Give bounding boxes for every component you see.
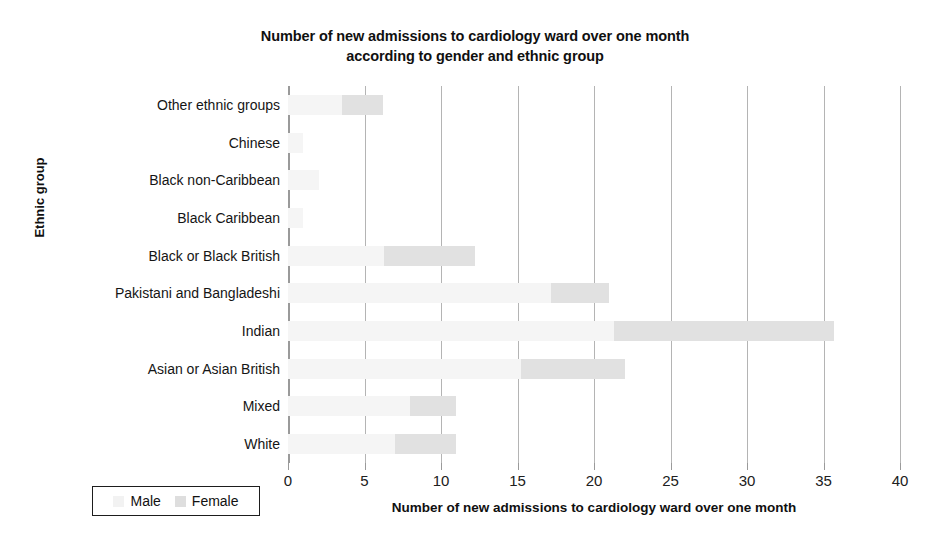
y-axis-category-label: Chinese [90,135,280,151]
x-tick-label: 5 [360,472,368,489]
x-gridline [900,86,901,463]
y-axis-category-label: Other ethnic groups [90,97,280,113]
bar-segment-male[interactable] [288,208,303,228]
bar-segment-female[interactable] [342,95,383,115]
legend-label: Male [130,493,160,509]
x-tick-mark [594,463,595,470]
x-tick-label: 15 [509,472,526,489]
x-tick-label: 10 [433,472,450,489]
x-tick-mark [671,463,672,470]
x-tick-mark [747,463,748,470]
y-axis-category-label: Pakistani and Bangladeshi [90,285,280,301]
legend-item[interactable]: Male [113,493,160,509]
y-axis-category-label: Asian or Asian British [90,361,280,377]
bar-row[interactable] [288,246,900,266]
x-tick-label: 20 [586,472,603,489]
bar-segment-male[interactable] [288,359,521,379]
x-tick-label: 0 [284,472,292,489]
bar-chart: Number of new admissions to cardiology w… [0,0,950,552]
y-axis-category-label: White [90,436,280,452]
y-axis-category-label: Mixed [90,398,280,414]
bar-segment-male[interactable] [288,246,384,266]
bar-segment-male[interactable] [288,434,395,454]
y-axis-category-label: Black Caribbean [90,210,280,226]
bar-row[interactable] [288,321,900,341]
bar-segment-female[interactable] [551,283,609,303]
x-tick-mark [824,463,825,470]
bar-segment-female[interactable] [614,321,834,341]
x-tick-label: 40 [892,472,909,489]
legend-swatch-male [113,496,124,507]
x-tick-mark [900,463,901,470]
bar-segment-female[interactable] [384,246,474,266]
bar-segment-female[interactable] [410,396,456,416]
legend-label: Female [192,493,239,509]
bar-segment-male[interactable] [288,133,303,153]
x-tick-mark [288,463,289,470]
bar-segment-male[interactable] [288,283,551,303]
plot-area: 0510152025303540 [288,86,900,463]
y-axis-category-label: Black non-Caribbean [90,172,280,188]
y-axis-title: Ethnic group [32,128,47,268]
bar-segment-male[interactable] [288,95,342,115]
bar-row[interactable] [288,208,900,228]
y-axis-category-labels: Other ethnic groupsChineseBlack non-Cari… [88,86,280,463]
chart-legend: MaleFemale [92,486,260,516]
bar-segment-female[interactable] [395,434,456,454]
bar-segment-male[interactable] [288,396,410,416]
bar-row[interactable] [288,283,900,303]
x-tick-mark [365,463,366,470]
x-tick-mark [441,463,442,470]
y-axis-category-label: Black or Black British [90,248,280,264]
x-axis-title: Number of new admissions to cardiology w… [288,500,900,515]
x-tick-label: 30 [739,472,756,489]
bar-row[interactable] [288,133,900,153]
bar-row[interactable] [288,359,900,379]
bar-row[interactable] [288,434,900,454]
x-tick-label: 35 [815,472,832,489]
chart-title: Number of new admissions to cardiology w… [0,26,950,66]
bar-segment-male[interactable] [288,321,614,341]
x-tick-label: 25 [662,472,679,489]
x-tick-mark [518,463,519,470]
chart-title-line-1: Number of new admissions to cardiology w… [0,26,950,46]
bar-row[interactable] [288,95,900,115]
bar-segment-male[interactable] [288,170,319,190]
bar-row[interactable] [288,170,900,190]
legend-item[interactable]: Female [175,493,239,509]
bar-row[interactable] [288,396,900,416]
legend-swatch-female [175,496,186,507]
y-axis-category-label: Indian [90,323,280,339]
chart-title-line-2: according to gender and ethnic group [0,46,950,66]
bar-segment-female[interactable] [521,359,625,379]
